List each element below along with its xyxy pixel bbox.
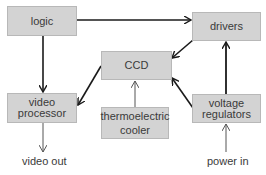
block-thermoelectric-cooler: thermoelectric cooler bbox=[101, 107, 169, 139]
block-voltage-regulators: voltage regulators bbox=[192, 94, 261, 123]
arrow-ccd-to-video-processor bbox=[78, 66, 101, 105]
io-label-power-in: power in bbox=[207, 156, 249, 167]
io-label-video-out: video out bbox=[22, 156, 67, 167]
arrow-drivers-to-ccd bbox=[172, 40, 193, 58]
block-logic: logic bbox=[7, 6, 77, 36]
arrow-regulators-to-ccd bbox=[172, 78, 193, 108]
block-logic-label: logic bbox=[31, 16, 54, 27]
block-thermoelectric-cooler-label-line2: cooler bbox=[120, 125, 150, 136]
block-voltage-regulators-label-line1: voltage bbox=[209, 98, 244, 109]
block-ccd: CCD bbox=[101, 51, 172, 80]
block-ccd-label: CCD bbox=[125, 60, 149, 71]
block-voltage-regulators-label-line2: regulators bbox=[202, 109, 251, 120]
block-drivers-label: drivers bbox=[210, 21, 243, 32]
ccd-camera-block-diagram: logic drivers CCD video processor thermo… bbox=[0, 0, 266, 175]
block-video-processor: video processor bbox=[7, 93, 77, 123]
block-thermoelectric-cooler-label-line1: thermoelectric bbox=[100, 111, 169, 122]
block-drivers: drivers bbox=[192, 12, 261, 41]
block-video-processor-label-line2: processor bbox=[18, 108, 66, 119]
